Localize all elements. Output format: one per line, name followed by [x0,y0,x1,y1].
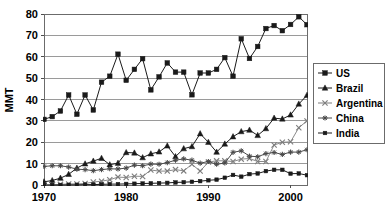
data-point-marker [165,61,170,66]
legend-item-label: US [336,68,350,79]
data-point-marker [140,56,145,61]
data-point-marker [165,160,170,165]
data-point-marker [239,175,243,179]
data-point-marker [296,149,301,154]
data-point-marker [206,71,211,76]
y-tick-label: 80 [26,8,38,20]
data-point-marker [206,159,211,164]
data-point-marker [255,44,260,49]
data-point-marker [50,163,55,168]
data-point-marker [174,181,178,185]
x-tick-label: 1980 [114,191,138,203]
data-point-marker [198,71,203,76]
data-point-marker [156,162,161,167]
data-point-marker [207,178,211,182]
data-point-marker [247,154,252,159]
data-point-marker [66,164,71,169]
data-point-marker [115,166,120,171]
y-axis-ticks: 01020304050607080 [26,8,44,191]
data-point-marker [256,172,260,176]
data-point-marker [239,148,244,153]
data-point-marker [264,26,269,31]
data-point-marker [230,150,235,155]
data-point-marker [157,75,162,80]
data-point-marker [99,167,104,172]
data-point-marker [222,160,227,165]
data-point-marker [288,149,293,154]
data-point-marker [83,183,87,187]
data-point-marker [58,109,63,114]
data-point-marker [108,182,112,186]
data-point-marker [182,180,186,184]
data-point-marker [272,168,276,172]
legend-marker-icon [323,71,328,76]
data-point-marker [189,158,194,163]
y-tick-label: 30 [26,115,38,127]
y-tick-label: 20 [26,136,38,148]
legend-item-label: India [336,128,360,139]
data-point-marker [214,162,219,167]
data-point-marker [247,56,252,61]
data-point-marker [124,182,128,186]
data-point-marker [263,151,268,156]
data-point-marker [116,52,121,57]
legend-marker-icon [323,131,327,135]
data-point-marker [124,166,129,171]
data-point-marker [173,70,178,75]
data-point-marker [157,181,161,185]
data-point-marker [66,93,71,98]
data-point-marker [223,176,227,180]
data-point-marker [280,152,285,157]
data-point-marker [133,182,137,186]
x-tick-label: 1990 [196,191,220,203]
data-point-marker [288,22,293,27]
soybean-production-line-chart: 01020304050607080 1970198019902000 MMT U… [0,0,387,217]
x-tick-label: 2000 [278,191,302,203]
data-point-marker [132,163,137,168]
data-point-marker [91,108,96,113]
data-point-marker [148,161,153,166]
y-axis-title: MMT [3,87,15,112]
chart-legend: USBrazilArgentinaChinaIndia [313,63,384,143]
data-point-marker [140,163,145,168]
x-tick-label: 1970 [32,191,56,203]
data-point-marker [75,112,80,117]
data-point-marker [181,70,186,75]
legend-item-label: China [336,113,364,124]
data-point-marker [231,74,236,79]
data-point-marker [264,169,268,173]
y-tick-label: 50 [26,72,38,84]
y-tick-label: 70 [26,29,38,41]
data-point-marker [214,67,219,72]
data-point-marker [190,180,194,184]
data-point-marker [248,172,252,176]
data-point-marker [181,156,186,161]
legend-item-label: Argentina [336,98,383,109]
y-tick-label: 10 [26,158,38,170]
data-point-marker [272,23,277,28]
data-point-marker [82,167,87,172]
data-point-marker [58,163,63,168]
data-point-marker [50,114,55,119]
data-point-marker [149,181,153,185]
data-point-marker [198,161,203,166]
data-point-marker [289,172,293,176]
data-point-marker [165,181,169,185]
data-point-marker [223,55,228,60]
data-point-marker [231,173,235,177]
data-point-marker [149,88,154,93]
data-point-marker [272,150,277,155]
data-point-marker [83,93,88,98]
data-point-marker [99,80,104,85]
data-point-marker [116,182,120,186]
legend-item-label: Brazil [336,83,363,94]
data-point-marker [239,36,244,41]
data-point-marker [92,183,96,187]
data-point-marker [100,183,104,187]
data-point-marker [215,178,219,182]
y-tick-label: 60 [26,51,38,63]
data-point-marker [255,154,260,159]
data-point-marker [141,182,145,186]
data-point-marker [124,78,129,83]
data-point-marker [198,179,202,183]
